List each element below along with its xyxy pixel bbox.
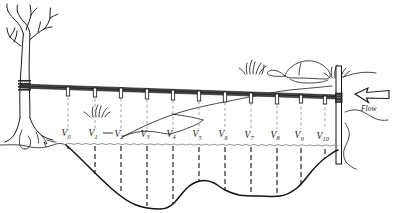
svg-text:5: 5: [199, 134, 202, 141]
tree-root-3: [19, 130, 25, 149]
vertical-label-v5: V 5: [193, 129, 202, 141]
svg-text:6: 6: [225, 134, 229, 141]
svg-text:3: 3: [146, 133, 150, 140]
hanger-v8: [275, 94, 278, 104]
flow-arrow-icon: [355, 88, 389, 103]
stream-cross-section-figure: Flow V 0 V 1 V 2 V 3 V: [0, 0, 401, 213]
cableway-post: [335, 66, 342, 164]
flow-arrow-shape: [355, 88, 389, 103]
vertical-label-v10: V 10: [317, 131, 330, 143]
svg-text:0: 0: [68, 133, 72, 140]
tree-twig-6: [50, 14, 58, 18]
svg-text:9: 9: [301, 135, 305, 142]
figure-canvas: Flow V 0 V 1 V 2 V 3 V: [0, 0, 401, 213]
grass-tuft-left-icon: [239, 60, 266, 74]
tree-trunk-right-edge: [29, 34, 30, 118]
hanger-v3: [145, 89, 148, 99]
hanger-v5: [197, 91, 200, 101]
grass-tuft-midchannel-icon: [84, 105, 110, 117]
vertical-label-v3: V 3: [141, 129, 150, 141]
tree-root-2: [30, 118, 53, 140]
vertical-label-v4: V 4: [167, 129, 176, 141]
left-bank-ground-line: [0, 144, 66, 148]
tree-trunk-left-edge: [20, 34, 24, 118]
hanger-v0: [66, 87, 69, 96]
stream-bed-profile: [66, 145, 338, 209]
svg-text:10: 10: [323, 135, 330, 142]
hanger-v10: [323, 96, 326, 104]
post-shaft: [336, 66, 342, 164]
tree-twig-9: [7, 28, 10, 37]
water-surface-line: [66, 143, 338, 146]
tree-twig-10: [10, 28, 15, 37]
tree-twig-4: [31, 8, 37, 15]
tree-root-5: [36, 132, 39, 143]
vertical-label-v0: V 0: [62, 128, 72, 140]
vertical-labels: V 0 V 1 V 2 V 3 V 4 V 5: [62, 128, 330, 142]
tree-branch-2b: [18, 12, 25, 22]
vertical-label-v7: V 7: [245, 130, 255, 142]
vertical-label-v2: V 2: [115, 129, 125, 141]
vertical-label-v9: V 9: [295, 130, 305, 142]
svg-text:1: 1: [95, 133, 98, 140]
vertical-label-v1: V 1: [89, 128, 98, 140]
hanger-v2: [119, 88, 122, 98]
svg-text:8: 8: [277, 134, 281, 141]
hanger-v7: [249, 93, 252, 103]
tree-twig-1: [7, 4, 8, 11]
tree-root-1: [5, 118, 20, 142]
svg-text:7: 7: [251, 134, 255, 141]
right-bank-lower-line: [344, 123, 350, 162]
tree-twig-8: [38, 22, 41, 32]
tree-branch-2a: [8, 11, 16, 21]
tree-twig-11: [14, 31, 17, 42]
vertical-label-v6: V 6: [219, 129, 229, 141]
tree-twig-5: [50, 8, 51, 18]
hanger-v4: [171, 90, 174, 100]
hanger-v1: [93, 88, 96, 97]
vertical-label-v8: V 8: [271, 130, 281, 142]
right-bank-ground: [340, 72, 388, 169]
far-bank-vegetation: [239, 60, 350, 83]
vertical-droplines-upper: [68, 92, 325, 129]
tree-illustration: [5, 4, 58, 149]
tree-branch-4: [30, 29, 44, 40]
far-bank-spur-return: [172, 114, 203, 120]
right-bank-lower-tail: [346, 162, 356, 169]
hanger-v6: [223, 92, 226, 102]
flow-label: Flow: [360, 104, 376, 113]
svg-text:4: 4: [173, 133, 176, 140]
vertical-droplines-lower: [68, 146, 325, 206]
cableway: [18, 80, 338, 104]
tree-root-7: [47, 140, 56, 142]
hanger-v9: [299, 95, 302, 103]
tree-twig-3: [30, 5, 31, 15]
boulder-icon: [268, 61, 331, 83]
